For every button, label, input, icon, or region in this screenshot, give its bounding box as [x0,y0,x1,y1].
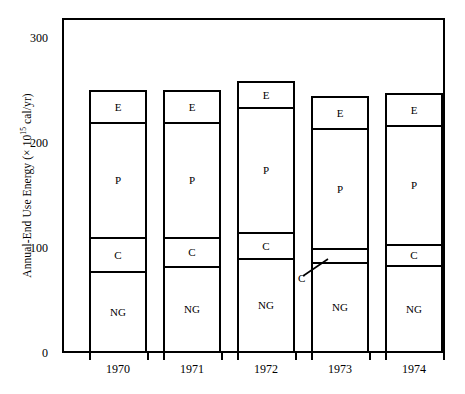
y-axis-title: Annual-End Use Energy (× 1015 cal/yr) [16,18,38,353]
x-axis-label-1972: 1972 [236,362,296,377]
bar-1970-segment-c: C [89,237,147,273]
y-axis-title-main: Annual-End Use Energy (× 10 [21,135,33,278]
x-tick-mark-1972-right [295,353,297,360]
y-axis-title-exponent: 15 [19,127,28,135]
x-tick-mark-1971-left [163,353,165,360]
bar-1974-segment-e: E [385,93,443,127]
x-axis-label-1973: 1973 [310,362,370,377]
bar-1970-segment-ng: NG [89,271,147,353]
bar-1971-segment-e: E [163,90,221,124]
bar-1971-segment-c: C [163,237,221,268]
bar-1974-segment-c: C [385,244,443,267]
x-axis-label-1974: 1974 [384,362,444,377]
x-tick-mark-1972-left [237,353,239,360]
y-axis-title-tail: cal/yr) [21,93,33,127]
x-tick-mark-1970-left [89,353,91,360]
y-tick-label-100: 100 [0,241,48,256]
energy-stacked-bar-chart: Annual-End Use Energy (× 1015 cal/yr) 30… [0,0,465,394]
x-tick-mark-1970-right [147,353,149,360]
bar-1974-segment-ng: NG [385,265,443,353]
bar-1973-c-callout-label: C [298,272,305,284]
bar-1972-segment-e: E [237,81,295,109]
bar-1973-segment-e: E [311,96,369,130]
bar-1972-segment-ng: NG [237,258,295,353]
x-tick-mark-1973-right [369,353,371,360]
bar-1970-segment-p: P [89,122,147,239]
bar-1970-segment-e: E [89,90,147,124]
x-tick-mark-1974-left [385,353,387,360]
bar-1973-segment-p: P [311,128,369,250]
x-tick-mark-1971-right [221,353,223,360]
x-axis-label-1971: 1971 [162,362,222,377]
bar-1972-segment-c: C [237,232,295,260]
y-tick-label-0: 0 [0,346,48,361]
bar-1974-segment-p: P [385,125,443,246]
y-tick-label-200: 200 [0,136,48,151]
bar-1971-segment-ng: NG [163,266,221,353]
x-tick-mark-1973-left [311,353,313,360]
y-tick-label-300: 300 [0,31,48,46]
bar-1973-c-leader-line [300,255,340,279]
x-tick-mark-1974-right [443,353,445,360]
x-axis-label-1970: 1970 [88,362,148,377]
bar-1972-segment-p: P [237,107,295,234]
bar-1971-segment-p: P [163,122,221,239]
